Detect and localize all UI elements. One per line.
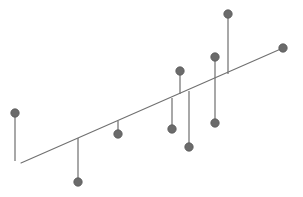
data-point-marker [185, 143, 193, 151]
data-point-marker [168, 125, 176, 133]
data-point-marker [211, 53, 219, 61]
data-point-marker [211, 119, 219, 127]
data-point-marker [176, 67, 184, 75]
data-point-marker [11, 109, 19, 117]
data-point-marker [224, 10, 232, 18]
plot-background [0, 0, 303, 197]
data-point-marker [114, 130, 122, 138]
data-point-marker [279, 44, 287, 52]
plot-canvas [0, 0, 303, 197]
data-point-marker [74, 178, 82, 186]
stem-plot-figure [0, 0, 303, 197]
